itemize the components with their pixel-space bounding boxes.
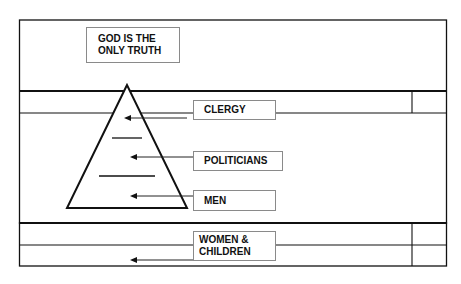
label-men: MEN [193, 190, 276, 211]
label-women-children: WOMEN & CHILDREN [193, 231, 276, 261]
arrow-women-children [130, 257, 194, 263]
label-politicians: POLITICIANS [193, 151, 283, 171]
label-clergy: CLERGY [193, 100, 276, 120]
pyramid [67, 85, 187, 208]
title-box-god-only-truth: GOD IS THE ONLY TRUTH [86, 27, 180, 63]
